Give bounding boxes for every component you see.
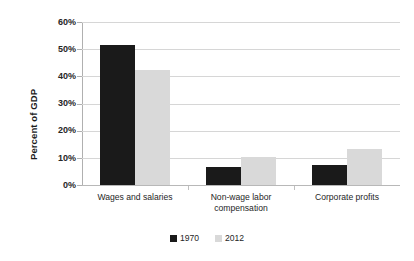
category-label-wages-line1: Wages and salaries: [82, 192, 188, 203]
legend-item-1970: 1970: [170, 233, 199, 243]
bar-wages-1970: [100, 45, 135, 185]
y-tick-label-20: 20%: [20, 125, 76, 135]
category-label-nonwage: Non-wage labor compensation: [188, 192, 294, 214]
bar-chart: Percent of GDP 60% 50% 40% 30% 20% 10% 0…: [0, 0, 414, 261]
bar-nonwage-1970: [206, 167, 241, 185]
y-tick-label-10: 10%: [20, 153, 76, 163]
bar-profits-2012: [347, 149, 382, 185]
category-label-profits: Corporate profits: [294, 192, 400, 203]
gridline-0-baseline: [82, 185, 400, 186]
category-label-wages: Wages and salaries: [82, 192, 188, 203]
y-tick-label-30: 30%: [20, 98, 76, 108]
y-axis-tick-labels: 60% 50% 40% 30% 20% 10% 0%: [16, 0, 76, 261]
category-label-profits-line1: Corporate profits: [294, 192, 400, 203]
legend-label-2012: 2012: [225, 233, 244, 243]
y-tick-label-60: 60%: [20, 17, 76, 27]
chart-legend: 1970 2012: [0, 233, 414, 243]
bar-nonwage-2012: [241, 157, 276, 185]
category-separator-2: [294, 186, 295, 190]
bar-wages-2012: [135, 70, 170, 185]
category-label-nonwage-line1: Non-wage labor: [188, 192, 294, 203]
category-label-nonwage-line2: compensation: [188, 203, 294, 214]
y-tick-label-50: 50%: [20, 44, 76, 54]
legend-label-1970: 1970: [180, 233, 199, 243]
y-tick-label-0: 0%: [20, 180, 76, 190]
gridline-60: [82, 22, 400, 23]
legend-swatch-icon-2012: [215, 235, 222, 242]
y-tick-label-40: 40%: [20, 71, 76, 81]
plot-area: [82, 22, 400, 185]
category-separator-1: [188, 186, 189, 190]
bar-profits-1970: [312, 165, 347, 185]
legend-item-2012: 2012: [215, 233, 244, 243]
legend-swatch-icon-1970: [170, 235, 177, 242]
